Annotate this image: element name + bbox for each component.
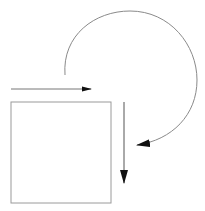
square [11, 102, 111, 203]
diagram-canvas [0, 0, 205, 211]
curved-arrow [65, 11, 197, 145]
